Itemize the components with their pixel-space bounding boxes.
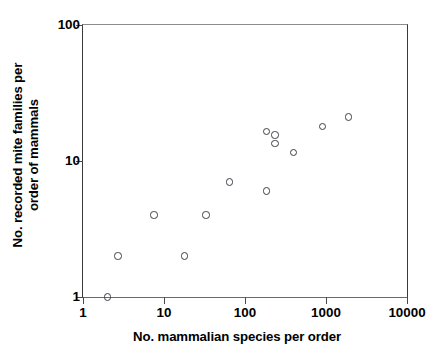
y-tick-label: 100 — [58, 17, 80, 32]
data-point — [104, 293, 111, 300]
data-point — [319, 123, 326, 130]
x-tick-mark — [326, 297, 327, 304]
data-point — [150, 211, 157, 218]
data-point — [226, 178, 233, 185]
x-tick-label: 100 — [234, 305, 256, 320]
x-tick-label: 1000 — [311, 305, 341, 320]
x-tick-label: 10000 — [388, 305, 425, 320]
data-point — [202, 211, 209, 218]
x-axis-title: No. mammalian species per order — [52, 329, 422, 344]
data-point — [271, 131, 278, 138]
y-axis-title-line1: No. recorded mite families per — [10, 63, 25, 248]
y-axis-title: No. recorded mite families per order of … — [10, 63, 42, 248]
x-tick-mark — [83, 297, 84, 304]
x-tick-mark — [164, 297, 165, 304]
data-point — [181, 252, 188, 259]
x-tick-label: 1 — [79, 305, 86, 320]
x-tick-label: 10 — [157, 305, 172, 320]
y-tick-label: 10 — [65, 153, 80, 168]
data-point — [263, 187, 270, 194]
y-axis-title-line2: order of mammals — [26, 63, 42, 248]
data-point — [271, 140, 278, 147]
data-point — [263, 128, 270, 135]
plot-area: 110100 110100100010000 — [82, 24, 408, 298]
data-point — [290, 149, 297, 156]
y-tick-label: 1 — [73, 289, 80, 304]
y-axis-title-container: No. recorded mite families per order of … — [0, 0, 52, 310]
x-tick-mark — [407, 297, 408, 304]
x-tick-mark — [245, 297, 246, 304]
data-point — [345, 113, 352, 120]
scatter-plot-figure: No. recorded mite families per order of … — [0, 0, 435, 363]
data-point — [114, 252, 121, 259]
